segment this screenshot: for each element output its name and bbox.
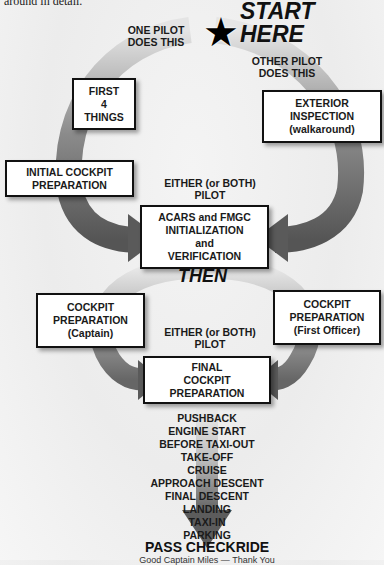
either-line1: EITHER (or BOTH) xyxy=(150,326,270,338)
phase-item: FINAL DESCENT xyxy=(92,490,322,503)
initial-cockpit-preparation-box: INITIAL COCKPIT PREPARATION xyxy=(5,160,134,197)
flight-phase-list: PUSHBACK ENGINE START BEFORE TAXI-OUT TA… xyxy=(92,412,322,542)
box-line: INITIAL COCKPIT xyxy=(26,166,113,179)
phase-item: TAXI-IN xyxy=(92,516,322,529)
phase-item: BEFORE TAXI-OUT xyxy=(92,438,322,451)
other-pilot-line2: DOES THIS xyxy=(244,67,330,79)
either-line2: PILOT xyxy=(150,338,270,350)
box-line: FINAL xyxy=(192,361,223,374)
footer-text: Good Captain Miles — Thank You xyxy=(92,555,322,565)
star-icon: ★ xyxy=(203,12,239,52)
box-line: VERIFICATION xyxy=(168,250,241,263)
box-line: THINGS xyxy=(84,111,124,124)
phase-item: APPROACH DESCENT xyxy=(92,477,322,490)
phase-item: PUSHBACK xyxy=(92,412,322,425)
other-pilot-line1: OTHER PILOT xyxy=(244,55,330,67)
box-line: COCKPIT xyxy=(67,301,114,314)
first-four-things-box: FIRST 4 THINGS xyxy=(72,78,136,130)
box-line: (Captain) xyxy=(68,327,114,340)
box-line: and xyxy=(195,237,214,250)
either-pilot-label-top: EITHER (or BOTH) PILOT xyxy=(150,177,270,201)
box-line: COCKPIT xyxy=(183,374,230,387)
box-line: (walkaround) xyxy=(289,123,354,136)
box-line: (First Officer) xyxy=(294,324,361,337)
exterior-inspection-box: EXTERIOR INSPECTION (walkaround) xyxy=(262,90,382,143)
box-line: PREPARATION xyxy=(53,314,128,327)
box-line: PREPARATION xyxy=(32,179,107,192)
box-line: INITIALIZATION xyxy=(166,224,244,237)
either-pilot-label-bottom: EITHER (or BOTH) PILOT xyxy=(150,326,270,350)
cockpit-preparation-captain-box: COCKPIT PREPARATION (Captain) xyxy=(36,293,145,348)
either-line1: EITHER (or BOTH) xyxy=(150,177,270,189)
box-line: PREPARATION xyxy=(290,311,365,324)
box-line: COCKPIT xyxy=(303,298,350,311)
phase-item: LANDING xyxy=(92,503,322,516)
pass-checkride-label: PASS CHECKRIDE xyxy=(92,540,322,554)
one-pilot-line1: ONE PILOT xyxy=(118,24,194,36)
final-cockpit-preparation-box: FINAL COCKPIT PREPARATION xyxy=(143,356,271,404)
then-label: THEN xyxy=(178,266,227,287)
start-here-line2: HERE xyxy=(240,23,315,46)
start-here-line1: START xyxy=(240,0,315,23)
box-line: 4 xyxy=(101,98,107,111)
acars-fmgc-box: ACARS and FMGC INITIALIZATION and VERIFI… xyxy=(140,205,269,269)
one-pilot-line2: DOES THIS xyxy=(118,36,194,48)
phase-item: CRUISE xyxy=(92,464,322,477)
box-line: ACARS and FMGC xyxy=(158,211,251,224)
box-line: INSPECTION xyxy=(290,110,354,123)
box-line: PREPARATION xyxy=(170,387,245,400)
phase-item: TAKE-OFF xyxy=(92,451,322,464)
either-line2: PILOT xyxy=(150,189,270,201)
start-here-title: START HERE xyxy=(240,0,315,46)
box-line: EXTERIOR xyxy=(295,97,349,110)
box-line: FIRST xyxy=(89,85,119,98)
other-pilot-label: OTHER PILOT DOES THIS xyxy=(244,55,330,79)
cockpit-preparation-fo-box: COCKPIT PREPARATION (First Officer) xyxy=(273,290,381,345)
phase-item: ENGINE START xyxy=(92,425,322,438)
one-pilot-label: ONE PILOT DOES THIS xyxy=(118,24,194,48)
